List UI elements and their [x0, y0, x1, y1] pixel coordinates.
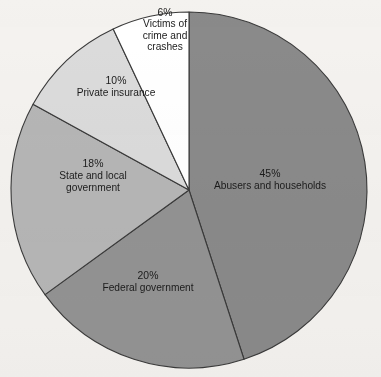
pie-slice-name-victims-line1: Victims of: [143, 18, 187, 29]
pie-slice-percent-private-insurance: 10%: [106, 75, 127, 86]
pie-slice-name-victims-line2: crime and: [143, 29, 188, 40]
pie-slice-percent-state-local: 18%: [83, 158, 104, 169]
pie-chart-svg: 45%Abusers and households20%Federal gove…: [0, 0, 381, 377]
pie-slice-name-state-local-line1: State and local: [59, 170, 126, 181]
pie-slice-percent-victims: 6%: [157, 6, 172, 17]
pie-slice-name-private-insurance-line1: Private insurance: [77, 86, 156, 97]
pie-chart: 45%Abusers and households20%Federal gove…: [0, 0, 381, 377]
pie-slice-name-federal-line1: Federal government: [102, 281, 193, 292]
pie-slice-percent-abusers: 45%: [260, 168, 281, 179]
pie-slice-percent-federal: 20%: [138, 270, 159, 281]
pie-slice-name-abusers-line1: Abusers and households: [214, 179, 326, 190]
pie-slice-name-state-local-line2: government: [66, 181, 120, 192]
pie-slice-name-victims-line3: crashes: [147, 41, 183, 52]
